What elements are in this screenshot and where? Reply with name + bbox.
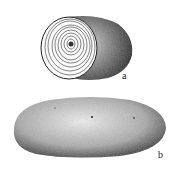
specimen-a <box>41 16 132 80</box>
panel-label-b: b <box>158 149 163 160</box>
specimen-b <box>14 97 166 158</box>
figure: a b <box>0 0 175 171</box>
illustration <box>0 0 175 171</box>
panel-label-a: a <box>122 70 126 81</box>
